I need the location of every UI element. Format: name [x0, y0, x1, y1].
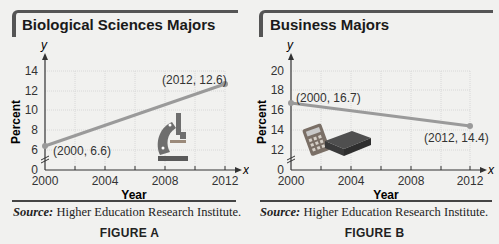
- book-icon: [325, 131, 371, 156]
- svg-text:y: y: [40, 38, 48, 52]
- divider-b: [260, 200, 492, 202]
- svg-text:Year: Year: [121, 188, 147, 200]
- svg-text:2000: 2000: [278, 174, 305, 188]
- svg-text:x: x: [242, 163, 249, 177]
- svg-text:2000: 2000: [32, 174, 59, 188]
- svg-text:(2000, 16.7): (2000, 16.7): [296, 91, 361, 105]
- calculator-icon: [302, 123, 330, 156]
- figure-label-a: FIGURE A: [5, 226, 254, 240]
- svg-text:16: 16: [271, 103, 285, 117]
- figure-label-b: FIGURE B: [250, 226, 499, 240]
- svg-text:14: 14: [271, 123, 285, 137]
- svg-text:2012: 2012: [457, 174, 484, 188]
- figure-b-panel: Business Majors: [250, 0, 499, 244]
- svg-text:2008: 2008: [152, 174, 179, 188]
- svg-text:12: 12: [271, 143, 285, 157]
- svg-text:Percent: Percent: [9, 100, 23, 144]
- svg-text:2012: 2012: [212, 174, 239, 188]
- divider-a: [12, 200, 236, 202]
- svg-text:12: 12: [25, 84, 39, 98]
- figure-a-panel: Biological Sciences Majors: [0, 0, 249, 244]
- svg-text:2004: 2004: [92, 174, 119, 188]
- svg-text:20: 20: [271, 64, 285, 78]
- svg-text:y: y: [286, 38, 294, 52]
- svg-text:2004: 2004: [338, 174, 365, 188]
- svg-text:(2012, 12.6): (2012, 12.6): [162, 73, 227, 87]
- svg-text:6: 6: [31, 143, 38, 157]
- svg-text:(2012, 14.4): (2012, 14.4): [424, 131, 489, 145]
- svg-text:18: 18: [271, 83, 285, 97]
- svg-text:14: 14: [25, 64, 39, 78]
- chart-a-plot: y x 14 12 10 8 6 0 2000 2004 2008 2012 Y…: [0, 0, 249, 200]
- svg-text:Year: Year: [373, 188, 399, 200]
- svg-text:Percent: Percent: [255, 100, 269, 144]
- microscope-icon: [158, 113, 188, 161]
- svg-text:x: x: [487, 163, 495, 177]
- svg-text:8: 8: [31, 123, 38, 137]
- svg-text:10: 10: [25, 103, 39, 117]
- source-a: Source: Higher Education Research Instit…: [13, 205, 241, 220]
- svg-text:2008: 2008: [398, 174, 425, 188]
- svg-text:(2000, 6.6): (2000, 6.6): [53, 144, 111, 158]
- source-b: Source: Higher Education Research Instit…: [260, 205, 488, 220]
- chart-b-plot: y x 20 18 16 14 12 0 2000 2004 2008 2012…: [250, 0, 499, 200]
